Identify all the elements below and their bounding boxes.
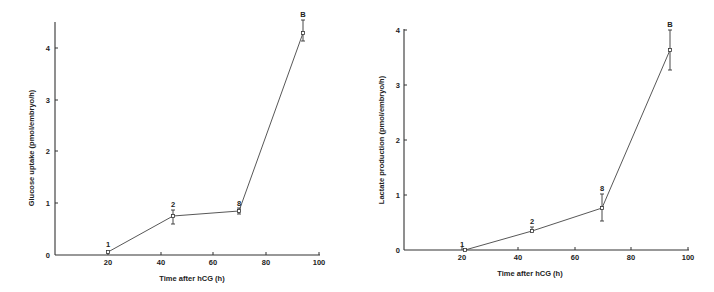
x-axis-label: Time after hCG (h) [159,274,225,283]
x-axis-label: Time after hCG (h) [497,269,563,278]
glucose-chart-svg: 20 40 60 80 100 0 1 2 3 4 Time after hCG… [0,0,357,292]
lactate-series-line [465,50,670,250]
point-label: 8 [237,199,241,208]
lactate-chart-svg: 20 40 60 80 100 0 1 2 3 4 Time after hCG… [357,0,714,292]
x-tick-label: 20 [458,253,466,262]
point-label: B [667,20,673,29]
y-tick-label: 3 [46,96,50,105]
y-tick-label: 3 [396,81,400,90]
y-tick-label: 1 [396,191,400,200]
data-points [464,49,672,252]
y-tick-label: 2 [396,136,400,145]
data-points [107,32,305,254]
y-axis-label: Glucose uptake (pmol/embryo/h) [27,89,36,206]
x-tick-label: 40 [514,253,522,262]
y-tick-label: 0 [46,251,50,260]
x-tick-label: 60 [209,258,217,267]
point-label: 8 [600,184,604,193]
x-tick-label: 60 [571,253,579,262]
y-tick-label: 1 [46,199,50,208]
y-tick-label: 4 [396,26,401,35]
point-label: 1 [106,240,110,249]
error-bars [530,30,672,232]
x-tick-label: 80 [627,253,635,262]
x-tick-label: 40 [157,258,165,267]
y-axis-label: Lactate production (pmol/embryo/h) [377,75,386,204]
x-tick-label: 100 [313,258,326,267]
point-label: B [300,10,306,19]
y-tick-label: 4 [46,44,51,53]
error-bars [171,20,305,224]
x-tick-label: 20 [104,258,112,267]
point-label: 2 [171,200,175,209]
glucose-series-line [108,33,303,252]
y-tick-label: 0 [396,246,400,255]
point-label: 1 [460,240,464,249]
lactate-production-chart: 20 40 60 80 100 0 1 2 3 4 Time after hCG… [357,0,714,292]
glucose-uptake-chart: 20 40 60 80 100 0 1 2 3 4 Time after hCG… [0,0,357,292]
x-tick-label: 80 [262,258,270,267]
y-tick-label: 2 [46,147,50,156]
x-tick-label: 100 [682,253,695,262]
point-label: 2 [530,217,534,226]
